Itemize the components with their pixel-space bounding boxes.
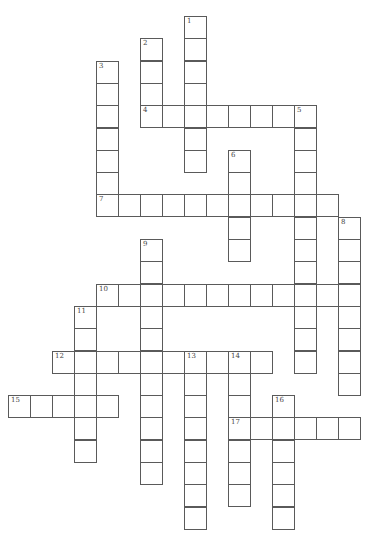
crossword-cell[interactable] xyxy=(162,284,185,307)
crossword-cell[interactable] xyxy=(228,462,251,485)
crossword-cell[interactable] xyxy=(184,194,207,217)
crossword-cell[interactable] xyxy=(140,194,163,217)
crossword-cell[interactable] xyxy=(272,284,295,307)
crossword-cell[interactable] xyxy=(338,328,361,351)
crossword-cell[interactable]: 6 xyxy=(228,150,251,173)
crossword-cell[interactable] xyxy=(140,261,163,284)
crossword-cell[interactable]: 1 xyxy=(184,16,207,39)
crossword-cell[interactable] xyxy=(140,306,163,329)
crossword-cell[interactable] xyxy=(272,462,295,485)
crossword-cell[interactable] xyxy=(316,417,339,440)
crossword-cell[interactable] xyxy=(184,38,207,61)
crossword-cell[interactable] xyxy=(96,395,119,418)
crossword-cell[interactable]: 11 xyxy=(74,306,97,329)
crossword-cell[interactable] xyxy=(162,105,185,128)
crossword-cell[interactable] xyxy=(184,284,207,307)
crossword-cell[interactable] xyxy=(140,395,163,418)
crossword-cell[interactable] xyxy=(338,306,361,329)
crossword-cell[interactable] xyxy=(250,194,273,217)
crossword-cell[interactable]: 7 xyxy=(96,194,119,217)
crossword-cell[interactable] xyxy=(140,373,163,396)
crossword-cell[interactable] xyxy=(228,484,251,507)
crossword-cell[interactable] xyxy=(294,351,317,374)
crossword-cell[interactable]: 10 xyxy=(96,284,119,307)
crossword-cell[interactable] xyxy=(272,194,295,217)
crossword-cell[interactable] xyxy=(140,284,163,307)
crossword-cell[interactable] xyxy=(30,395,53,418)
crossword-cell[interactable] xyxy=(118,194,141,217)
crossword-cell[interactable] xyxy=(228,194,251,217)
crossword-cell[interactable] xyxy=(228,217,251,240)
crossword-cell[interactable]: 17 xyxy=(228,417,251,440)
crossword-cell[interactable] xyxy=(250,351,273,374)
crossword-cell[interactable] xyxy=(206,105,229,128)
crossword-cell[interactable] xyxy=(228,172,251,195)
crossword-cell[interactable] xyxy=(52,395,75,418)
crossword-cell[interactable] xyxy=(250,417,273,440)
crossword-cell[interactable] xyxy=(338,351,361,374)
crossword-cell[interactable] xyxy=(294,194,317,217)
crossword-cell[interactable] xyxy=(162,351,185,374)
crossword-cell[interactable] xyxy=(74,395,97,418)
crossword-cell[interactable] xyxy=(338,284,361,307)
crossword-cell[interactable] xyxy=(184,61,207,84)
crossword-cell[interactable] xyxy=(272,105,295,128)
crossword-cell[interactable] xyxy=(294,128,317,151)
crossword-cell[interactable] xyxy=(316,194,339,217)
crossword-cell[interactable] xyxy=(96,351,119,374)
crossword-cell[interactable] xyxy=(184,507,207,530)
crossword-cell[interactable] xyxy=(250,105,273,128)
crossword-cell[interactable] xyxy=(228,239,251,262)
crossword-cell[interactable] xyxy=(272,440,295,463)
crossword-cell[interactable] xyxy=(184,462,207,485)
crossword-cell[interactable] xyxy=(294,261,317,284)
crossword-cell[interactable] xyxy=(206,194,229,217)
crossword-cell[interactable] xyxy=(140,83,163,106)
crossword-cell[interactable] xyxy=(140,328,163,351)
crossword-cell[interactable]: 3 xyxy=(96,61,119,84)
crossword-cell[interactable]: 4 xyxy=(140,105,163,128)
crossword-cell[interactable]: 8 xyxy=(338,217,361,240)
crossword-cell[interactable] xyxy=(184,395,207,418)
crossword-cell[interactable] xyxy=(294,150,317,173)
crossword-cell[interactable] xyxy=(272,484,295,507)
crossword-cell[interactable] xyxy=(184,440,207,463)
crossword-cell[interactable] xyxy=(228,284,251,307)
crossword-cell[interactable] xyxy=(250,284,273,307)
crossword-cell[interactable] xyxy=(294,217,317,240)
crossword-cell[interactable] xyxy=(228,373,251,396)
crossword-cell[interactable] xyxy=(272,507,295,530)
crossword-cell[interactable] xyxy=(74,351,97,374)
crossword-cell[interactable]: 13 xyxy=(184,351,207,374)
crossword-cell[interactable] xyxy=(140,462,163,485)
crossword-cell[interactable] xyxy=(338,417,361,440)
crossword-cell[interactable] xyxy=(184,83,207,106)
crossword-cell[interactable] xyxy=(206,351,229,374)
crossword-cell[interactable] xyxy=(184,150,207,173)
crossword-cell[interactable]: 14 xyxy=(228,351,251,374)
crossword-cell[interactable] xyxy=(140,417,163,440)
crossword-cell[interactable] xyxy=(184,484,207,507)
crossword-cell[interactable] xyxy=(96,172,119,195)
crossword-cell[interactable] xyxy=(140,61,163,84)
crossword-cell[interactable] xyxy=(338,239,361,262)
crossword-cell[interactable] xyxy=(228,395,251,418)
crossword-cell[interactable] xyxy=(294,417,317,440)
crossword-cell[interactable] xyxy=(184,373,207,396)
crossword-cell[interactable] xyxy=(316,284,339,307)
crossword-cell[interactable] xyxy=(294,306,317,329)
crossword-cell[interactable] xyxy=(206,284,229,307)
crossword-cell[interactable] xyxy=(184,105,207,128)
crossword-cell[interactable] xyxy=(140,351,163,374)
crossword-cell[interactable] xyxy=(184,128,207,151)
crossword-cell[interactable] xyxy=(272,417,295,440)
crossword-cell[interactable]: 9 xyxy=(140,239,163,262)
crossword-cell[interactable]: 15 xyxy=(8,395,31,418)
crossword-cell[interactable] xyxy=(228,105,251,128)
crossword-cell[interactable] xyxy=(162,194,185,217)
crossword-cell[interactable]: 5 xyxy=(294,105,317,128)
crossword-cell[interactable] xyxy=(96,128,119,151)
crossword-cell[interactable]: 16 xyxy=(272,395,295,418)
crossword-cell[interactable] xyxy=(118,351,141,374)
crossword-cell[interactable]: 2 xyxy=(140,38,163,61)
